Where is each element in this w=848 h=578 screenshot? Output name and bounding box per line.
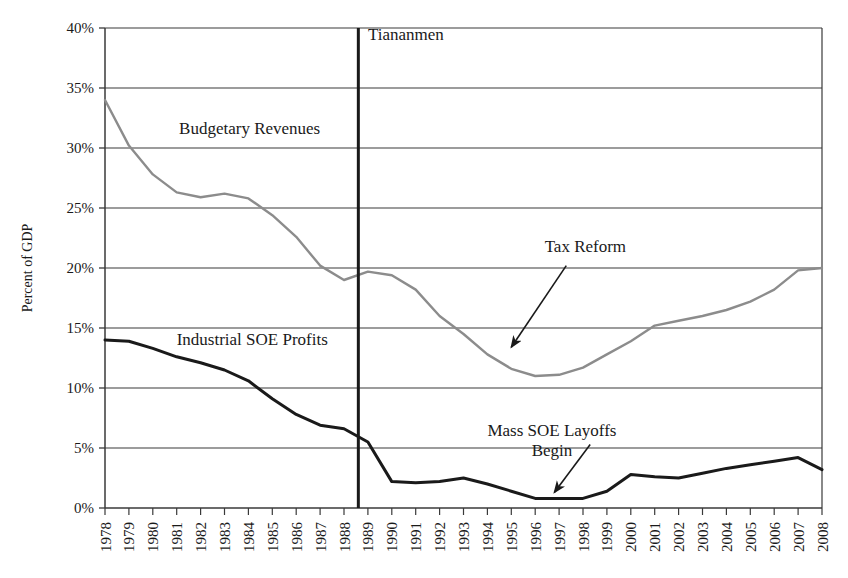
x-tick-label-1988: 1988 (337, 522, 353, 552)
x-tick-label-1994: 1994 (480, 522, 496, 553)
series-label-industrial-soe-profits: Industrial SOE Profits (177, 330, 328, 349)
x-tick-label-2003: 2003 (695, 522, 711, 552)
x-tick-label-2008: 2008 (815, 522, 831, 552)
x-tick-label-1999: 1999 (599, 522, 615, 552)
x-tick-label-2000: 2000 (623, 522, 639, 552)
x-tick-label-1978: 1978 (98, 522, 114, 552)
x-tick-label-1995: 1995 (504, 522, 520, 552)
x-tick-label-1983: 1983 (217, 522, 233, 552)
x-tick-label-1979: 1979 (121, 522, 137, 552)
y-tick-label-15: 15% (67, 320, 95, 336)
annotation-label-tiananmen: Tiananmen (368, 25, 444, 44)
x-tick-label-1987: 1987 (313, 522, 329, 553)
y-tick-label-35: 35% (67, 80, 95, 96)
x-tick-label-1998: 1998 (576, 522, 592, 552)
annotation-label-mass-soe-layoffs-line1: Mass SOE Layoffs (487, 421, 616, 440)
series-inline-labels: Budgetary RevenuesIndustrial SOE Profits (177, 119, 328, 349)
data-series (105, 100, 822, 498)
x-axis-ticks (105, 508, 822, 515)
y-tick-label-25: 25% (67, 200, 95, 216)
x-tick-label-1985: 1985 (265, 522, 281, 552)
chart-annotations: TiananmenTax ReformMass SOE LayoffsBegin (358, 25, 626, 508)
y-tick-label-10: 10% (67, 380, 95, 396)
x-tick-label-1991: 1991 (408, 522, 424, 552)
y-tick-label-40: 40% (67, 20, 95, 36)
x-tick-label-1997: 1997 (552, 522, 568, 553)
x-tick-label-2002: 2002 (671, 522, 687, 552)
x-tick-label-2007: 2007 (791, 522, 807, 553)
x-tick-label-2006: 2006 (767, 522, 783, 553)
x-tick-label-1996: 1996 (528, 522, 544, 553)
x-tick-label-1981: 1981 (169, 522, 185, 552)
x-tick-label-2004: 2004 (719, 522, 735, 553)
x-tick-label-2001: 2001 (647, 522, 663, 552)
x-tick-label-2005: 2005 (743, 522, 759, 552)
x-tick-label-1992: 1992 (432, 522, 448, 552)
x-tick-label-1990: 1990 (384, 522, 400, 552)
x-tick-label-1989: 1989 (360, 522, 376, 552)
x-tick-label-1980: 1980 (145, 522, 161, 552)
x-tick-label-1982: 1982 (193, 522, 209, 552)
y-axis-tick-labels: 0%5%10%15%20%25%30%35%40% (67, 20, 95, 516)
x-tick-label-1993: 1993 (456, 522, 472, 552)
series-line-industrial-soe-profits (105, 340, 822, 498)
x-tick-label-1986: 1986 (289, 522, 305, 553)
x-axis-tick-labels: 1978197919801981198219831984198519861987… (98, 522, 831, 553)
series-label-budgetary-revenues: Budgetary Revenues (179, 119, 320, 138)
y-tick-label-0: 0% (74, 500, 94, 516)
annotation-label-tax-reform: Tax Reform (545, 237, 626, 256)
y-tick-label-5: 5% (74, 440, 94, 456)
y-axis-title: Percent of GDP (20, 223, 35, 312)
annotation-arrow-tax-reform (511, 266, 566, 348)
line-chart: 0%5%10%15%20%25%30%35%40% 19781979198019… (0, 0, 848, 578)
y-tick-label-20: 20% (67, 260, 95, 276)
x-tick-label-1984: 1984 (241, 522, 257, 553)
chart-container: 0%5%10%15%20%25%30%35%40% 19781979198019… (0, 0, 848, 578)
y-tick-label-30: 30% (67, 140, 95, 156)
grid-lines (105, 28, 822, 508)
annotation-label-mass-soe-layoffs-line2: Begin (532, 441, 573, 460)
